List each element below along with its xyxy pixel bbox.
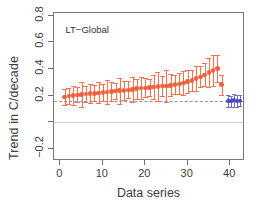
y-axis-title: Trend in C/decade — [2, 0, 26, 216]
error-bar-cap — [130, 77, 135, 78]
x-tick-label: 20 — [129, 167, 159, 179]
error-bar-cap — [134, 79, 139, 80]
y-tick-label: 0.6 — [33, 25, 45, 55]
x-tick-label: 0 — [44, 167, 74, 179]
x-tick-mark — [102, 160, 103, 165]
x-axis-title: Data series — [53, 186, 244, 200]
y-tick-label: 0.4 — [33, 52, 45, 82]
error-bar-cap — [219, 75, 224, 76]
error-bar-cap — [238, 106, 242, 107]
error-bar-cap — [79, 82, 84, 83]
error-bar-cap — [100, 101, 105, 102]
error-bar-cap — [113, 83, 118, 84]
error-bar-cap — [238, 95, 242, 96]
error-bar-cap — [83, 86, 88, 87]
error-bar-cap — [100, 84, 105, 85]
data-point — [215, 66, 220, 71]
error-bar-cap — [71, 105, 76, 106]
data-point — [219, 82, 224, 87]
error-bar-cap — [139, 99, 144, 100]
x-tick-mark — [187, 160, 188, 165]
error-bar-cap — [130, 102, 135, 103]
error-bar-cap — [117, 104, 122, 105]
error-bar-cap — [62, 89, 67, 90]
error-bar-cap — [75, 102, 80, 103]
error-bar-cap — [164, 102, 169, 103]
x-tick-mark — [229, 160, 230, 165]
error-bar-cap — [151, 75, 156, 76]
zero-reference-line — [54, 122, 243, 123]
error-bar-cap — [185, 93, 190, 94]
error-bar-cap — [189, 70, 194, 71]
error-bar-cap — [92, 101, 97, 102]
error-bar-cap — [122, 100, 127, 101]
error-bar-cap — [194, 91, 199, 92]
error-bar-cap — [160, 76, 165, 77]
error-bar-cap — [105, 80, 110, 81]
error-bar-cap — [143, 97, 148, 98]
x-tick-label: 10 — [87, 167, 117, 179]
error-bar-cap — [126, 81, 131, 82]
error-bar-cap — [177, 73, 182, 74]
chart-figure: Trend in C/decade Data series −0.20.20.4… — [0, 0, 257, 216]
error-bar-cap — [155, 101, 160, 102]
y-tick-label: 0.8 — [33, 0, 45, 29]
data-point — [238, 99, 242, 103]
series-annotation-label: LT−Global — [65, 24, 108, 35]
error-bar-cap — [198, 87, 203, 88]
error-bar-cap — [229, 96, 233, 97]
error-bar-cap — [211, 86, 216, 87]
x-tick-label: 30 — [172, 167, 202, 179]
error-bar-cap — [96, 103, 101, 104]
error-bar-cap — [66, 88, 71, 89]
error-bar-cap — [151, 99, 156, 100]
error-bar-cap — [206, 58, 211, 59]
error-bar-cap — [92, 85, 97, 86]
x-tick-label: 40 — [214, 167, 244, 179]
error-bar-cap — [88, 103, 93, 104]
error-bar-cap — [160, 96, 165, 97]
y-tick-label: −0.2 — [33, 132, 45, 162]
error-bar-cap — [172, 75, 177, 76]
error-bar-cap — [105, 104, 110, 105]
error-bar-cap — [198, 66, 203, 67]
x-tick-mark — [59, 160, 60, 165]
error-bar-cap — [168, 96, 173, 97]
error-bar-cap — [219, 95, 224, 96]
x-tick-mark — [144, 160, 145, 165]
error-bar-cap — [215, 55, 220, 56]
error-bar-cap — [113, 99, 118, 100]
error-bar-cap — [79, 107, 84, 108]
error-bar-cap — [126, 98, 131, 99]
y-tick-label: 0.2 — [33, 79, 45, 109]
error-bar-cap — [117, 78, 122, 79]
error-bar-cap — [75, 87, 80, 88]
plot-area: LT−Global — [53, 12, 244, 160]
error-bar-cap — [181, 95, 186, 96]
error-bar-cap — [155, 72, 160, 73]
error-bar-cap — [164, 70, 169, 71]
error-bar-cap — [147, 96, 152, 97]
error-bar-cap — [202, 63, 207, 64]
error-bar-cap — [109, 101, 114, 102]
error-bar-cap — [147, 79, 152, 80]
